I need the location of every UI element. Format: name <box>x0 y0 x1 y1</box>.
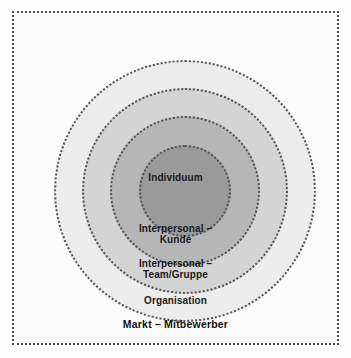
label-individuum: Individuum <box>0 172 351 183</box>
diagram-canvas: Individuum Interpersonal – Kunde Interpe… <box>0 0 351 358</box>
label-interpersonal-kunde: Interpersonal – Kunde <box>0 223 351 245</box>
label-markt-mitbewerber: Markt – Mitbewerber <box>0 318 351 330</box>
label-organisation: Organisation <box>0 295 351 306</box>
label-interpersonal-team: Interpersonal – Team/Gruppe <box>0 258 351 280</box>
